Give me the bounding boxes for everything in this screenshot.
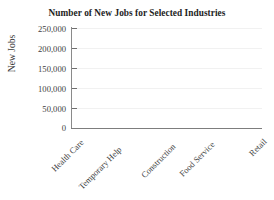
y-tick-mark-1 xyxy=(72,48,77,49)
y-tick-label-200000: 200,000 xyxy=(4,44,66,54)
y-tick-label-0: 0 xyxy=(4,123,66,133)
y-tick-label-50000: 50,000 xyxy=(4,104,66,114)
y-tick-label-150000: 150,000 xyxy=(4,64,66,74)
chart-title: Number of New Jobs for Selected Industri… xyxy=(0,8,274,18)
x-axis-line xyxy=(71,128,262,129)
y-tick-mark-2 xyxy=(72,68,77,69)
y-tick-label-100000: 100,000 xyxy=(4,84,66,94)
y-axis-line xyxy=(71,27,72,129)
plot-area xyxy=(71,28,262,128)
chart-container: Number of New Jobs for Selected Industri… xyxy=(0,0,274,200)
bars-layer xyxy=(71,28,262,128)
y-tick-mark-0 xyxy=(72,28,77,29)
y-tick-mark-4 xyxy=(72,108,77,109)
y-tick-mark-3 xyxy=(72,88,77,89)
y-tick-label-250000: 250,000 xyxy=(4,24,66,34)
